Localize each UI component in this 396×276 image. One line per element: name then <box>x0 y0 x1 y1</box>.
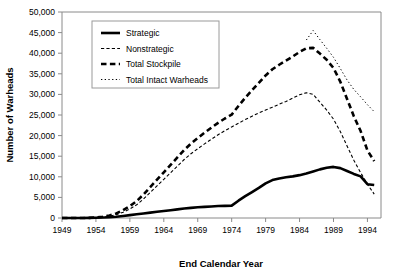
y-tick-label: 25,000 <box>29 110 55 120</box>
legend-label-total-intact-warheads: Total Intact Warheads <box>126 75 208 85</box>
x-tick-label: 1969 <box>188 225 207 235</box>
x-tick-label: 1979 <box>256 225 275 235</box>
x-tick-label: 1949 <box>53 225 72 235</box>
legend-label-total-stockpile: Total Stockpile <box>126 59 181 69</box>
x-axis-title: End Calendar Year <box>179 258 263 269</box>
y-tick-label: 50,000 <box>29 7 55 17</box>
x-tick-label: 1954 <box>86 225 105 235</box>
legend: StrategicNonstrategicTotal StockpileTota… <box>92 21 219 88</box>
x-tick-label: 1974 <box>222 225 241 235</box>
warheads-line-chart: 05,00010,00015,00020,00025,00030,00035,0… <box>0 0 396 276</box>
x-tick-label: 1964 <box>154 225 173 235</box>
x-tick-label: 1994 <box>358 225 377 235</box>
legend-label-strategic: Strategic <box>126 28 160 38</box>
y-axis-title: Number of Warheads <box>4 67 15 162</box>
y-tick-label: 15,000 <box>29 151 55 161</box>
y-tick-label: 30,000 <box>29 89 55 99</box>
y-tick-label: 35,000 <box>29 69 55 79</box>
y-tick-label: 10,000 <box>29 172 55 182</box>
y-tick-label: 5,000 <box>34 192 56 202</box>
y-tick-label: 45,000 <box>29 28 55 38</box>
y-tick-label: 40,000 <box>29 48 55 58</box>
y-tick-label: 20,000 <box>29 131 55 141</box>
chart-container: 05,00010,00015,00020,00025,00030,00035,0… <box>0 0 396 276</box>
x-tick-label: 1984 <box>290 225 309 235</box>
x-tick-label: 1989 <box>324 225 343 235</box>
legend-label-nonstrategic: Nonstrategic <box>126 44 174 54</box>
x-tick-label: 1959 <box>120 225 139 235</box>
y-tick-label: 0 <box>50 213 55 223</box>
